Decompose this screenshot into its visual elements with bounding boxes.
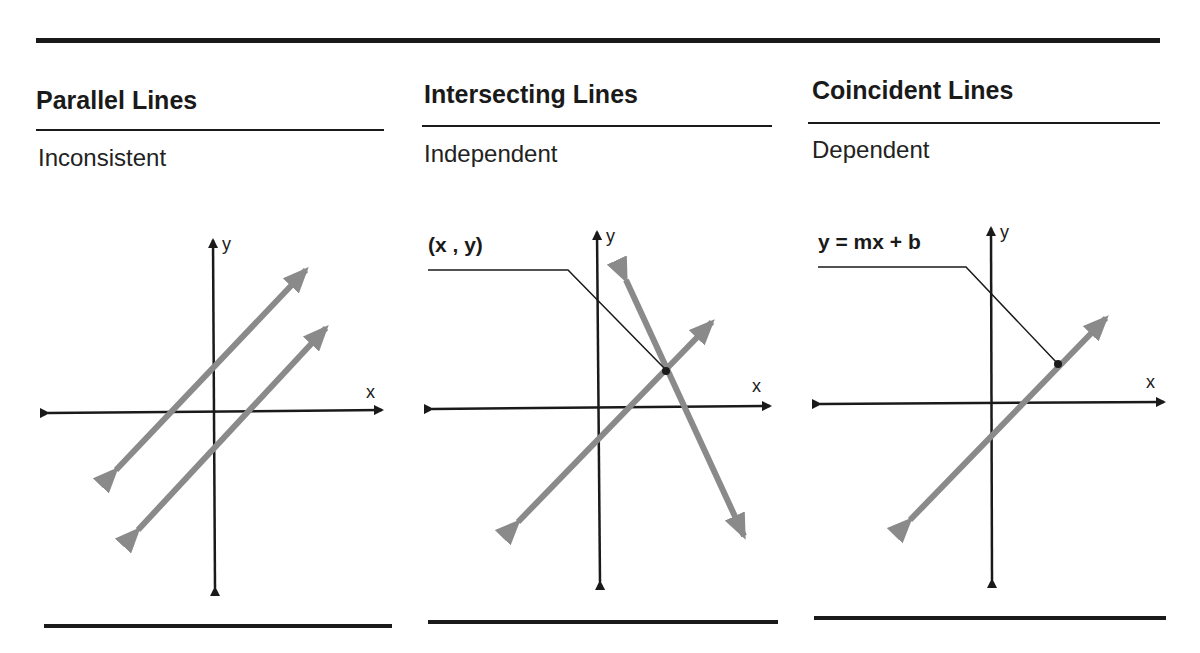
y-axis	[991, 228, 992, 580]
intersection-point	[662, 367, 670, 375]
coincident-line	[910, 318, 1106, 520]
x-label-3: x	[1146, 372, 1155, 393]
intersecting-graph	[428, 232, 770, 582]
bottom-rule-2	[428, 620, 778, 624]
callout-equation: y = mx + b	[818, 230, 921, 254]
line-b	[138, 328, 326, 530]
y-axis	[213, 240, 215, 588]
y-label-2: y	[606, 226, 615, 247]
x-label-2: x	[752, 376, 761, 397]
callout-point: (x , y)	[428, 233, 483, 257]
x-label-1: x	[366, 382, 375, 403]
line-point	[1054, 360, 1062, 368]
y-label-1: y	[222, 234, 231, 255]
y-axis	[597, 232, 600, 582]
line-a	[518, 322, 712, 522]
coincident-graph	[818, 228, 1164, 580]
callout-leader	[818, 267, 1058, 364]
line-a	[116, 270, 306, 470]
bottom-rule-3	[814, 616, 1166, 620]
parallel-graph	[48, 240, 382, 588]
graphs	[0, 0, 1200, 653]
y-label-3: y	[1000, 222, 1009, 243]
x-axis	[432, 406, 770, 409]
bottom-rule-1	[44, 624, 392, 628]
